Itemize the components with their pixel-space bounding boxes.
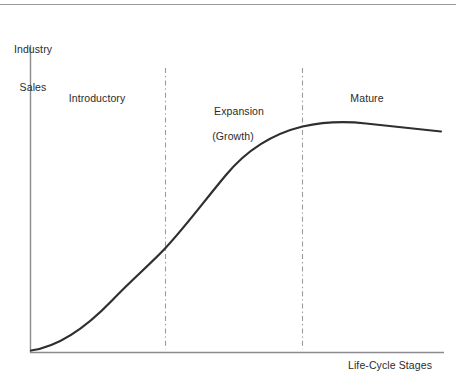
stage-label-introductory: Introductory (57, 92, 137, 105)
y-axis-label: Industry Sales (4, 18, 62, 118)
y-axis-label-line2: Sales (4, 81, 62, 94)
x-axis-label: Life-Cycle Stages (348, 359, 432, 372)
stage-label-mature: Mature (327, 92, 407, 105)
stage-label-expansion: Expansion (Growth) (193, 92, 273, 167)
y-axis-label-line1: Industry (4, 43, 62, 56)
stage-label-expansion-line2: (Growth) (193, 130, 273, 143)
stage-label-expansion-line1: Expansion (214, 105, 264, 117)
industry-life-cycle-figure: Industry Sales Life-Cycle Stages Introdu… (0, 0, 456, 385)
life-cycle-chart-plot (0, 0, 456, 385)
